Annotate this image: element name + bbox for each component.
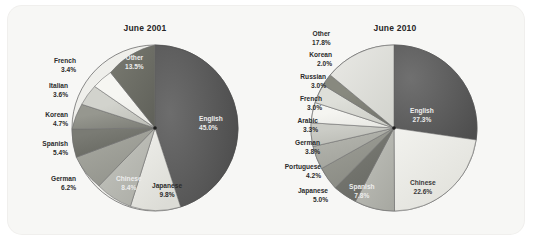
label-2001-spanish: Spanish 5.4% [22, 139, 68, 157]
label-2010-russian: Russian 3.0% [280, 72, 326, 90]
pie-2010-canvas [308, 42, 480, 214]
chart-title-2001: June 2001 [16, 23, 274, 33]
label-2010-english: English 27.3% [410, 106, 434, 124]
label-2010-other: Other 17.8% [312, 29, 331, 47]
label-2010-german: German 3.8% [270, 138, 320, 156]
label-2001-french: French 3.4% [32, 56, 76, 74]
slice-2010-chinese [394, 128, 476, 211]
label-2010-arabic: Arabic 3.3% [272, 116, 318, 134]
pie-chart-june-2010: June 2010 [260, 6, 518, 234]
label-2001-korean: Korean 4.7% [22, 110, 68, 128]
figure-card: June 2001 [8, 6, 524, 234]
chart-title-2010: June 2010 [266, 23, 524, 33]
label-2001-chinese: Chinese 8.4% [116, 174, 142, 192]
label-2001-japanese: Japanese 9.8% [152, 181, 182, 199]
pie-2010-center-dot [392, 126, 396, 130]
label-2010-korean: Korean 2.0% [286, 50, 332, 68]
label-2010-spanish: Spanish 7.8% [349, 182, 375, 200]
label-2001-german: German 6.2% [30, 174, 76, 192]
pie-2001-center-dot [153, 126, 157, 130]
label-2010-japanese: Japanese 5.0% [278, 186, 328, 204]
pie-chart-june-2001: June 2001 [8, 6, 266, 234]
slice-2010-english [394, 45, 477, 140]
label-2010-chinese: Chinese 22.6% [410, 178, 436, 196]
pie-2010-svg [308, 42, 480, 214]
label-2001-english: English 45.0% [199, 114, 223, 132]
label-2010-french: French 3.0% [276, 94, 322, 112]
label-2001-other: Other 13.5% [125, 53, 144, 71]
label-2001-italian: Italian 3.6% [26, 81, 68, 99]
label-2010-portuguese: Portuguese 4.2% [263, 162, 321, 180]
